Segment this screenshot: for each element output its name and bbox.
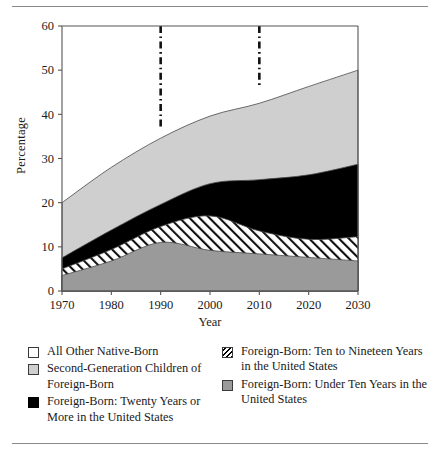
y-tick-label-20: 20 — [42, 196, 55, 210]
hatched-swatch — [222, 347, 233, 358]
legend-item[interactable]: Foreign-Born: Ten to Nineteen Years in t… — [222, 344, 432, 375]
x-tick-label-1980: 1980 — [99, 298, 124, 312]
y-tick-label-60: 60 — [42, 19, 55, 33]
top-horizontal-rule — [12, 6, 428, 7]
legend-column-left: All Other Native-BornSecond-Generation C… — [28, 344, 228, 427]
x-tick-label-1970: 1970 — [50, 298, 75, 312]
white-outline-swatch — [28, 347, 39, 358]
x-tick-label-2010: 2010 — [247, 298, 272, 312]
legend-item-label: All Other Native-Born — [47, 344, 158, 359]
legend-column-right: Foreign-Born: Ten to Nineteen Years in t… — [222, 344, 432, 410]
legend-item-label: Foreign-Born: Twenty Years or More in th… — [47, 394, 228, 425]
stacked-area-chart: Percentage Year 010203040506019701980199… — [0, 10, 440, 335]
legend-item[interactable]: Foreign-Born: Under Ten Years in the Uni… — [222, 377, 432, 408]
legend-item-label: Foreign-Born: Under Ten Years in the Uni… — [241, 377, 432, 408]
area-series-group — [62, 26, 358, 291]
y-tick-label-40: 40 — [42, 108, 55, 122]
chart-plot-area: 0102030405060197019801990200020102020203… — [0, 10, 440, 335]
bottom-horizontal-rule — [12, 443, 428, 444]
x-tick-label-2000: 2000 — [198, 298, 223, 312]
mid-gray-swatch — [222, 380, 233, 391]
x-tick-label-2030: 2030 — [346, 298, 371, 312]
y-axis-title: Percentage — [14, 91, 29, 201]
legend-item[interactable]: All Other Native-Born — [28, 344, 228, 359]
y-tick-label-10: 10 — [42, 240, 55, 254]
y-tick-label-50: 50 — [42, 63, 55, 77]
legend-item-label: Foreign-Born: Ten to Nineteen Years in t… — [241, 344, 432, 375]
y-tick-label-30: 30 — [42, 152, 55, 166]
chart-legend: All Other Native-BornSecond-Generation C… — [0, 344, 440, 440]
black-swatch — [28, 397, 39, 408]
x-tick-label-2020: 2020 — [296, 298, 321, 312]
legend-item[interactable]: Second-Generation Children of Foreign-Bo… — [28, 361, 228, 392]
legend-item-label: Second-Generation Children of Foreign-Bo… — [47, 361, 228, 392]
x-axis-title: Year — [0, 315, 420, 330]
y-tick-label-0: 0 — [48, 284, 54, 298]
x-tick-label-1990: 1990 — [148, 298, 173, 312]
light-gray-swatch — [28, 364, 39, 375]
legend-item[interactable]: Foreign-Born: Twenty Years or More in th… — [28, 394, 228, 425]
